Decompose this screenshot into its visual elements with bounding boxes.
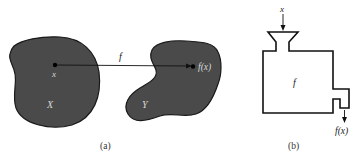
set-x-label: X (46, 99, 54, 110)
image-fx-label: f(x) (198, 62, 211, 73)
panel-a: x X f f(x) Y (a) (10, 37, 221, 152)
set-x-blob (10, 37, 100, 127)
input-x-label: x (279, 4, 284, 14)
set-y-blob (126, 41, 221, 121)
output-arrow-down-icon (342, 117, 347, 123)
point-x (53, 63, 57, 67)
panel-b: x f f(x) (b) (263, 4, 349, 152)
function-f-label: f (119, 51, 123, 62)
caption-a: (a) (100, 141, 111, 152)
function-machine-outline (263, 32, 349, 113)
point-fx (191, 64, 195, 68)
element-x-label: x (51, 69, 56, 79)
caption-b: (b) (288, 141, 299, 152)
input-arrow-down-icon (281, 25, 286, 31)
output-fx-label: f(x) (335, 126, 348, 137)
function-diagram: x X f f(x) Y (a) x f f(x) (b) (0, 0, 358, 159)
